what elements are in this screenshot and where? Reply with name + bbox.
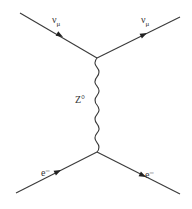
feynman-diagram: νμ νμ Z° e⁻ e⁻ (0, 0, 192, 209)
arrow-icon (54, 168, 63, 176)
label-z-boson: Z° (75, 94, 85, 105)
outgoing-electron-line (97, 152, 180, 194)
label-outgoing-neutrino: νμ (141, 14, 150, 28)
outgoing-neutrino-line (97, 17, 180, 58)
label-incoming-neutrino: νμ (52, 14, 61, 28)
z-boson-propagator (95, 58, 99, 152)
arrow-icon (140, 31, 149, 39)
label-incoming-electron: e⁻ (41, 167, 50, 178)
label-outgoing-electron: e⁻ (145, 169, 154, 180)
